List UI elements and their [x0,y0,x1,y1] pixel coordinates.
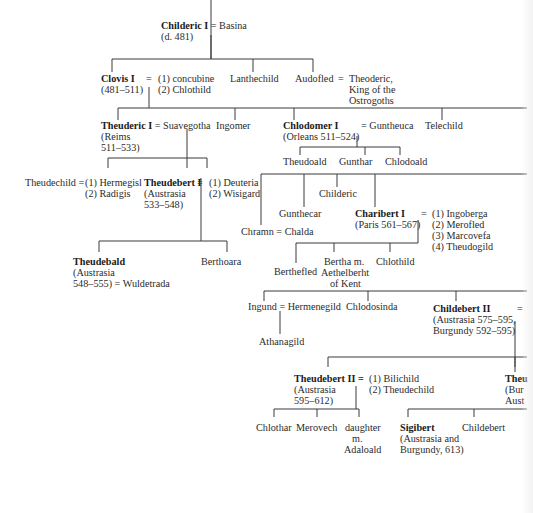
childebert-ii-dates-1: (Austrasia 575–595, [433,314,516,326]
person-ingund: Ingund = Hermenegild [248,301,341,313]
person-childebert-ii: Childebert II [433,303,490,315]
person-sigibert: Sigibert [400,422,435,434]
person-gunthecar: Gunthecar [279,208,321,220]
audofled-spouse-1: Theoderic, [349,73,393,85]
person-athanagild: Athanagild [259,336,304,348]
person-lanthechild: Lanthechild [230,73,279,85]
person-theudechild: Theudechild = [25,177,84,189]
theudebald-dates-1: (Austrasia [73,267,115,279]
person-telechild: Telechild [425,120,463,132]
person-chlodomer-i: Chlodomer I [283,120,339,132]
theudebald-dates-2: 548–555) = Wuldetrada [73,278,170,290]
theudebert-ii-spouse-2: (2) Theudechild [369,384,434,396]
person-childebert: Childebert [462,422,505,434]
theudebert-i-spouse-1: (1) Deuteria [209,177,259,189]
person-theudebald: Theudebald [73,256,125,268]
person-chlodosinda: Chlodosinda [346,301,398,313]
person-theudoald: Theudoald [283,156,327,168]
charibert-spouse-2: (2) Merofled [432,219,484,231]
person-theuderic-i: Theuderic I = Suavegotha [101,120,211,132]
audofled-spouse-2: King of the [349,84,395,96]
person-berthoara: Berthoara [201,256,241,268]
bertha-line-3: of Kent [330,278,361,290]
theudebert-ii-dates-1: (Austrasia [294,384,336,396]
charibert-spouse-4: (4) Theudogild [432,241,493,253]
person-childeric: Childeric [319,188,357,200]
bertha-line-1: Bertha m. [324,256,364,268]
spouse: = Basina [211,20,247,31]
clovis-spouse-1: (1) concubine [158,73,214,85]
person-chlodoald: Chlodoald [385,156,427,168]
theudechild-spouse-2: (2) Radigis [85,188,131,200]
person-ingomer: Ingomer [216,120,251,132]
clovis-i-dates: (481–511) [101,84,143,96]
person-merovech: Merovech [296,422,337,434]
audofled-equals: = [338,73,344,85]
theudebert-i-dates-1: (Austrasia [144,188,186,200]
person-chlothar: Chlothar [256,422,292,434]
theudebert-i-equals: = [197,177,203,189]
clovis-spouse-2: (2) Chlothild [158,84,211,96]
bertha-line-2: Aethelberht [321,267,369,279]
page-edge-shadow [521,0,533,513]
charibert-spouse-1: (1) Ingoberga [432,208,488,220]
daughter-line-3: Adaloald [344,444,381,456]
theudebert-ii-spouse-1: (1) Bilichild [369,373,419,385]
person-childeric-i: Childeric I = Basina [161,20,247,32]
theudebert-ii-dates-2: 595–612) [294,395,333,407]
daughter-line-1: daughter [345,422,381,434]
charibert-spouse-3: (3) Marcovefa [432,230,491,242]
theudechild-spouse-1: (1) Hermegisl [85,177,142,189]
person-clovis-i: Clovis I [101,73,135,85]
theudebert-i-spouse-2: (2) Wisigard [209,188,260,200]
childeric-i-dates: (d. 481) [161,31,193,43]
person-berthefled: Berthefled [274,266,317,278]
name: Theuderic I [101,120,152,131]
sigibert-dates-2: Burgundy, 613) [400,444,464,456]
charibert-i-dates: (Paris 561–567) [355,219,420,231]
spouse: = Suavegotha [155,120,211,131]
person-chlothild: Chlothild [376,256,415,268]
daughter-line-2: m. [352,433,362,445]
person-chramn: Chramn = Chalda [241,226,314,238]
theuderic-i-dates-1: (Reims [101,131,130,143]
person-gunthar: Gunthar [339,156,372,168]
audofled-spouse-3: Ostrogoths [349,95,394,107]
sigibert-dates-1: (Austrasia and [400,433,459,445]
childebert-ii-dates-2: Burgundy 592–595) [433,325,515,337]
theudebert-i-dates-2: 533–548) [144,199,183,211]
person-theudebert-i: Theudebert I [144,177,201,189]
chlodomer-i-dates: (Orleans 511–524) [283,131,359,143]
person-audofled: Audofled [295,73,333,85]
theuderic-i-dates-2: 511–533) [101,142,140,154]
person-theudebert-ii: Theudebert II = [294,373,364,385]
chlodomer-i-spouse: = Guntheuca [361,120,413,132]
charibert-i-equals: = [421,208,427,220]
person-charibert-i: Charibert I [355,208,405,220]
name: Childeric I [161,20,208,31]
clovis-i-equals: = [146,73,152,85]
